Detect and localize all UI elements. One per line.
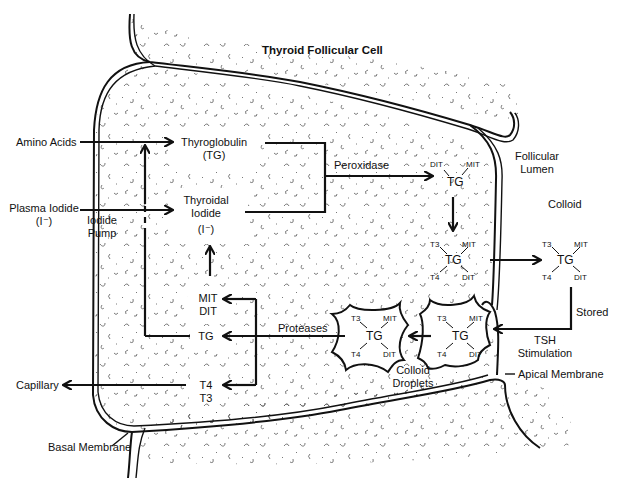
colloid-tg-center: TG [557, 254, 574, 267]
droplet2-mit: MIT [469, 314, 483, 323]
t4-t3-label: T4 T3 [194, 379, 218, 405]
diagram-graphics [0, 0, 617, 489]
tsh-stimulation-label: TSH Stimulation [510, 334, 580, 360]
basal-membrane-label: Basal Membrane [48, 441, 131, 454]
capillary-label: Capillary [16, 379, 59, 392]
follicular-lumen-label: Follicular Lumen [512, 150, 562, 176]
coupled-tg-dit: DIT [462, 273, 475, 282]
colloid-tg-t3: T3 [542, 240, 551, 249]
droplet1-t3: T3 [351, 314, 360, 323]
iodinated-tg-dit: DIT [430, 160, 443, 169]
diagram-title: Thyroid Follicular Cell [262, 44, 383, 57]
colloid-droplets-label: Colloid Droplets [390, 364, 436, 390]
droplet2-tg: TG [452, 330, 469, 343]
thyroidal-iodide-label: Thyroidal Iodide (I⁻) [176, 194, 236, 236]
peroxidase-label: Peroxidase [334, 159, 389, 172]
colloid-tg-dit: DIT [574, 273, 587, 282]
colloid-tg-mit: MIT [574, 240, 588, 249]
colloid-tg-t4: T4 [542, 273, 551, 282]
proteases-label: Proteases [278, 322, 328, 335]
iodide-pump-label: Iodide Pump [84, 214, 120, 240]
thyroid-diagram: Thyroid Follicular Cell Amino Acids Plas… [0, 0, 617, 489]
iodinated-tg-mit: MIT [466, 160, 480, 169]
stored-label: Stored [576, 306, 608, 319]
droplet2-t4: T4 [437, 350, 446, 359]
plasma-iodide-label: Plasma Iodide (I⁻) [8, 202, 80, 228]
coupled-tg-t3: T3 [430, 240, 439, 249]
coupled-tg-center: TG [445, 254, 462, 267]
droplet1-tg: TG [366, 330, 383, 343]
colloid-label: Colloid [548, 198, 582, 211]
tg-label: TG [194, 330, 218, 343]
droplet2-t3: T3 [437, 314, 446, 323]
coupled-tg-mit: MIT [462, 240, 476, 249]
droplet1-dit: DIT [383, 350, 396, 359]
amino-acids-label: Amino Acids [16, 136, 77, 149]
iodinated-tg-center: TG [447, 176, 464, 189]
droplet1-t4: T4 [351, 350, 360, 359]
droplet2-dit: DIT [469, 350, 482, 359]
apical-membrane-label: Apical Membrane [518, 368, 604, 381]
droplet1-mit: MIT [383, 314, 397, 323]
coupled-tg-t4: T4 [430, 273, 439, 282]
thyroglobulin-label: Thyroglobulin (TG) [174, 136, 254, 162]
mit-dit-label: MIT DIT [194, 292, 222, 318]
